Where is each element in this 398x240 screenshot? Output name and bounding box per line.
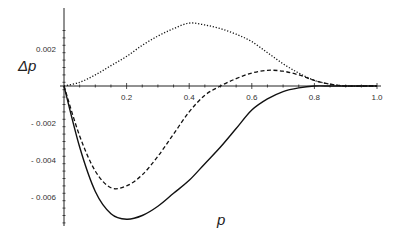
x-tick-label: 1.0 [371,93,383,102]
y-axis-label: Δp [17,57,36,74]
curves [64,23,377,219]
line-chart: 0.20.40.60.81.00.002- 0.002- 0.004- 0.00… [0,0,398,240]
y-tick-label: - 0.004 [31,156,56,165]
x-tick-label: 0.4 [184,93,196,102]
x-axis-label: p [216,211,225,228]
x-tick-label: 0.8 [309,93,321,102]
curve-dashed [64,70,377,189]
x-tick-label: 0.2 [121,93,133,102]
y-tick-label: 0.002 [36,45,57,54]
y-tick-label: - 0.002 [31,119,56,128]
y-tick-label: - 0.006 [31,193,56,202]
axes: 0.20.40.60.81.00.002- 0.002- 0.004- 0.00… [31,8,383,226]
curve-dotted [64,23,377,86]
curve-solid [64,86,377,219]
x-tick-label: 0.6 [246,93,258,102]
